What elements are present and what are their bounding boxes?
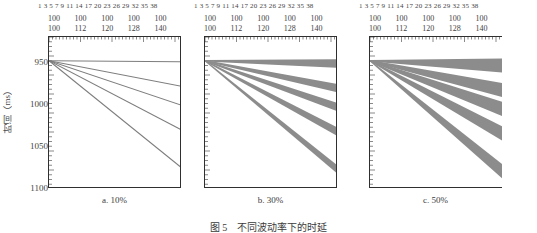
top-row-b-value: 140 [154,24,181,33]
top-row-b: 100 112 120 128 140 [204,24,337,33]
y-tick-label: 1000 [18,100,48,109]
top-row-a-value: 100 [284,14,311,23]
top-row-a-value: 100 [422,14,449,23]
top-row-a-value: 100 [154,14,181,23]
top-row-a-value: 100 [257,14,284,23]
figure-title: 图 5 不同波动率下的时延 [0,219,537,233]
top-row-b-value: 120 [422,24,449,33]
y-axis-ticks: 950 1000 1050 1100 [12,0,48,233]
top-row-b-value: 120 [101,24,128,33]
y-tick-label: 950 [18,58,48,67]
top-row-b-value: 112 [396,24,423,33]
top-row-b-value: 128 [128,24,155,33]
top-row-a-value: 100 [449,14,476,23]
top-row-b: 100 112 120 128 140 [369,24,502,33]
plot-area-a [48,36,181,188]
panel-c: 1 3 5 7 9 11 14 17 20 23 26 29 32 35 38 … [369,0,502,233]
top-row-a-value: 100 [204,14,231,23]
panel-caption-c: c. 50% [369,195,502,205]
panel-caption-a: a. 10% [48,195,181,205]
top-row-a-value: 100 [310,14,337,23]
top-row-a-value: 100 [475,14,502,23]
top-row-b-value: 100 [369,24,396,33]
top-row-b-value: 112 [75,24,102,33]
top-row-b-value: 112 [231,24,258,33]
top-row-a-value: 100 [101,14,128,23]
top-row-b-value: 128 [449,24,476,33]
top-row-b-value: 140 [310,24,337,33]
top-row-a: 100 100 100 100 100 [204,14,337,23]
panel-a: 1 3 5 7 9 11 14 17 20 23 26 29 32 35 38 … [48,0,181,233]
y-tick-label: 1050 [18,142,48,151]
plot-area-c [369,36,502,188]
panel-b: 1 3 5 7 9 11 14 17 20 23 26 29 32 35 38 … [204,0,337,233]
figure-container: 时间（ms） 950 1000 1050 1100 1 3 5 7 9 11 1… [0,0,537,233]
top-index-row: 1 3 5 7 9 11 14 17 20 23 26 29 32 35 38 [38,2,195,10]
top-row-a-value: 100 [369,14,396,23]
top-row-b: 100 112 120 128 140 [48,24,181,33]
top-row-b-value: 120 [257,24,284,33]
top-index-row: 1 3 5 7 9 11 14 17 20 23 26 29 32 35 38 [194,2,351,10]
top-row-b-value: 140 [475,24,502,33]
top-row-b-value: 100 [48,24,75,33]
top-index-row: 1 3 5 7 9 11 14 17 20 23 26 29 32 35 38 [359,2,516,10]
top-row-a-value: 100 [128,14,155,23]
top-row-b-value: 128 [284,24,311,33]
top-row-a-value: 100 [75,14,102,23]
top-row-a-value: 100 [231,14,258,23]
panel-caption-b: b. 30% [204,195,337,205]
top-row-a-value: 100 [48,14,75,23]
top-row-a-value: 100 [396,14,423,23]
top-row-b-value: 100 [204,24,231,33]
plot-area-b [204,36,337,188]
top-row-a: 100 100 100 100 100 [48,14,181,23]
top-row-a: 100 100 100 100 100 [369,14,502,23]
y-tick-label: 1100 [18,184,48,193]
